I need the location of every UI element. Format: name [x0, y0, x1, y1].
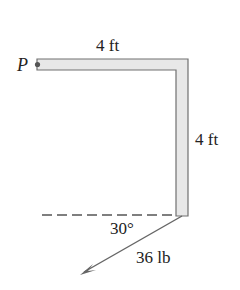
force-arrow-head	[80, 264, 96, 275]
l-shaped-bar	[37, 59, 188, 216]
angle-label: 30°	[110, 220, 134, 237]
force-label: 36 lb	[136, 249, 170, 266]
point-label: P	[17, 56, 28, 74]
point-p-dot	[35, 62, 40, 67]
vertical-length-label: 4 ft	[195, 131, 218, 148]
horizontal-length-label: 4 ft	[96, 37, 119, 54]
